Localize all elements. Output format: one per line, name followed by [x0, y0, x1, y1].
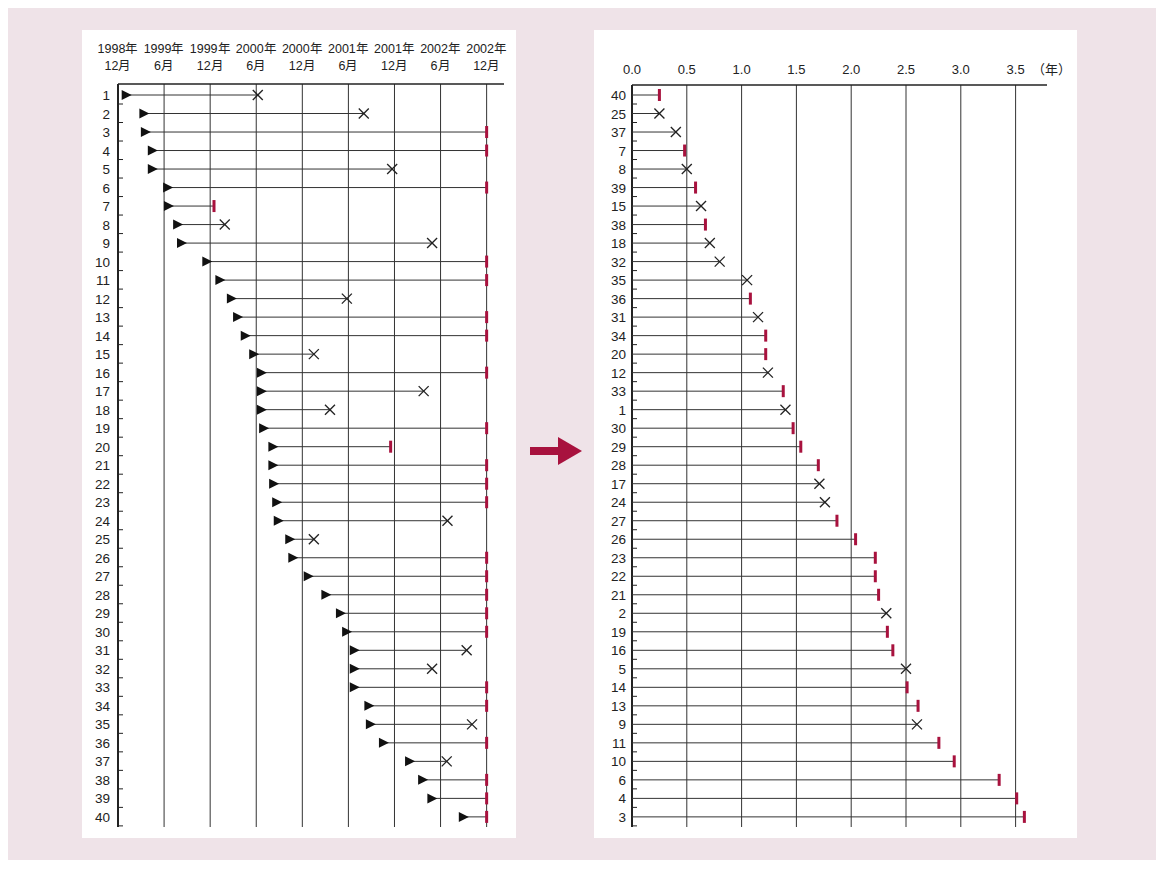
- x-tick-year-label: 2000年: [282, 42, 323, 56]
- timeline-row-22: 22: [95, 477, 488, 493]
- censor-bar-icon: [485, 774, 488, 786]
- duration-row-3: 3: [618, 810, 1025, 826]
- row-label: 28: [611, 458, 626, 473]
- censor-bar-icon: [835, 515, 838, 527]
- timeline-row-29: 29: [95, 606, 488, 622]
- censor-bar-icon: [485, 700, 488, 712]
- row-label: 9: [618, 717, 626, 732]
- entry-triangle-icon: [148, 164, 158, 174]
- row-label: 31: [95, 643, 110, 658]
- x-tick-label: 2.0: [842, 62, 860, 77]
- row-label: 26: [611, 532, 626, 547]
- row-label: 18: [611, 236, 626, 251]
- timeline-row-16: 16: [95, 366, 488, 382]
- censor-bar-icon: [1023, 811, 1026, 823]
- censor-bar-icon: [485, 626, 488, 638]
- entry-triangle-icon: [177, 238, 187, 248]
- row-label: 40: [611, 88, 626, 103]
- duration-sorted-chart: 0.00.51.01.52.02.53.03.5（年）4025377839153…: [594, 30, 1077, 838]
- duration-row-22: 22: [611, 569, 877, 585]
- timeline-row-39: 39: [95, 791, 488, 807]
- censor-bar-icon: [1015, 792, 1018, 804]
- row-label: 5: [618, 662, 626, 677]
- timeline-row-1: 1: [102, 88, 262, 104]
- row-label: 4: [618, 791, 626, 806]
- timeline-row-3: 3: [102, 125, 488, 141]
- censor-bar-icon: [485, 145, 488, 157]
- x-tick-month-label: 6月: [154, 59, 174, 73]
- row-label: 13: [611, 699, 626, 714]
- row-label: 10: [611, 754, 626, 769]
- censor-bar-icon: [874, 570, 877, 582]
- entry-triangle-icon: [257, 386, 267, 396]
- duration-row-21: 21: [611, 588, 880, 604]
- duration-row-23: 23: [611, 551, 877, 567]
- entry-triangle-icon: [249, 349, 259, 359]
- row-label: 29: [611, 440, 626, 455]
- row-label: 8: [102, 218, 110, 233]
- x-tick-label: 0.5: [678, 62, 696, 77]
- timeline-row-27: 27: [95, 569, 488, 585]
- row-label: 38: [95, 773, 110, 788]
- entry-triangle-icon: [304, 571, 314, 581]
- timeline-row-10: 10: [95, 255, 488, 271]
- duration-row-2: 2: [618, 606, 891, 622]
- censor-bar-icon: [764, 330, 767, 342]
- row-label: 23: [95, 495, 110, 510]
- entry-triangle-icon: [285, 534, 295, 544]
- timeline-row-28: 28: [95, 588, 488, 604]
- censor-bar-icon: [485, 274, 488, 286]
- entry-triangle-icon: [418, 775, 428, 785]
- entry-triangle-icon: [364, 701, 374, 711]
- censor-bar-icon: [485, 607, 488, 619]
- row-label: 4: [102, 144, 110, 159]
- row-label: 36: [95, 736, 110, 751]
- row-label: 3: [102, 125, 110, 140]
- row-label: 21: [611, 588, 626, 603]
- duration-row-19: 19: [611, 625, 889, 641]
- x-tick-month-label: 12月: [105, 59, 132, 73]
- duration-row-17: 17: [611, 477, 824, 493]
- censor-bar-icon: [917, 700, 920, 712]
- timeline-row-38: 38: [95, 773, 488, 789]
- row-label: 10: [95, 255, 110, 270]
- x-tick-label: 1.0: [733, 62, 751, 77]
- entry-triangle-icon: [202, 257, 212, 267]
- censor-bar-icon: [874, 552, 877, 564]
- entry-triangle-icon: [269, 479, 279, 489]
- timeline-row-37: 37: [95, 754, 452, 770]
- censor-bar-icon: [485, 182, 488, 194]
- row-label: 37: [611, 125, 626, 140]
- duration-row-18: 18: [611, 236, 715, 252]
- row-label: 6: [102, 181, 110, 196]
- row-label: 23: [611, 551, 626, 566]
- row-label: 16: [95, 366, 110, 381]
- row-label: 38: [611, 218, 626, 233]
- row-label: 2: [618, 606, 626, 621]
- row-label: 35: [611, 273, 626, 288]
- row-label: 32: [95, 662, 110, 677]
- duration-row-33: 33: [611, 384, 785, 400]
- right-arrow-icon: [530, 437, 582, 465]
- x-tick-label: 2.5: [897, 62, 915, 77]
- timeline-row-35: 35: [95, 717, 477, 733]
- entry-triangle-icon: [257, 368, 267, 378]
- censor-bar-icon: [485, 256, 488, 268]
- row-label: 7: [102, 199, 110, 214]
- timeline-row-18: 18: [95, 403, 335, 419]
- row-label: 25: [95, 532, 110, 547]
- x-tick-year-label: 2002年: [466, 42, 507, 56]
- timeline-row-36: 36: [95, 736, 488, 752]
- duration-row-37: 37: [611, 125, 681, 141]
- entry-triangle-icon: [139, 109, 149, 119]
- x-tick-label: 3.0: [952, 62, 970, 77]
- row-label: 2: [102, 107, 110, 122]
- row-label: 30: [95, 625, 110, 640]
- censor-bar-icon: [485, 792, 488, 804]
- timeline-row-14: 14: [95, 329, 488, 345]
- row-label: 40: [95, 810, 110, 825]
- row-label: 26: [95, 551, 110, 566]
- row-label: 14: [611, 680, 627, 695]
- entry-triangle-icon: [350, 664, 360, 674]
- timeline-row-25: 25: [95, 532, 319, 548]
